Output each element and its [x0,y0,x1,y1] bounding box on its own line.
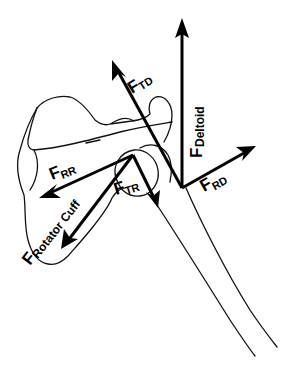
arrowhead-icon [236,146,256,161]
svg-text:TR: TR [123,181,141,197]
arrowhead-icon [112,60,126,81]
svg-text:RR: RR [59,164,78,181]
label-f-rr: F RR [46,156,78,184]
deltoid-vector [175,18,189,188]
humerus-shaft [157,188,277,356]
label-deltoid: F Deltoid [187,106,207,158]
svg-text:F: F [187,148,206,158]
diagram-canvas: F Deltoid F TD F RD F RR F TR F Rotator … [0,0,293,368]
svg-text:Deltoid: Deltoid [193,106,207,147]
shoulder-force-diagram: F Deltoid F TD F RD F RR F TR F Rotator … [0,0,293,368]
